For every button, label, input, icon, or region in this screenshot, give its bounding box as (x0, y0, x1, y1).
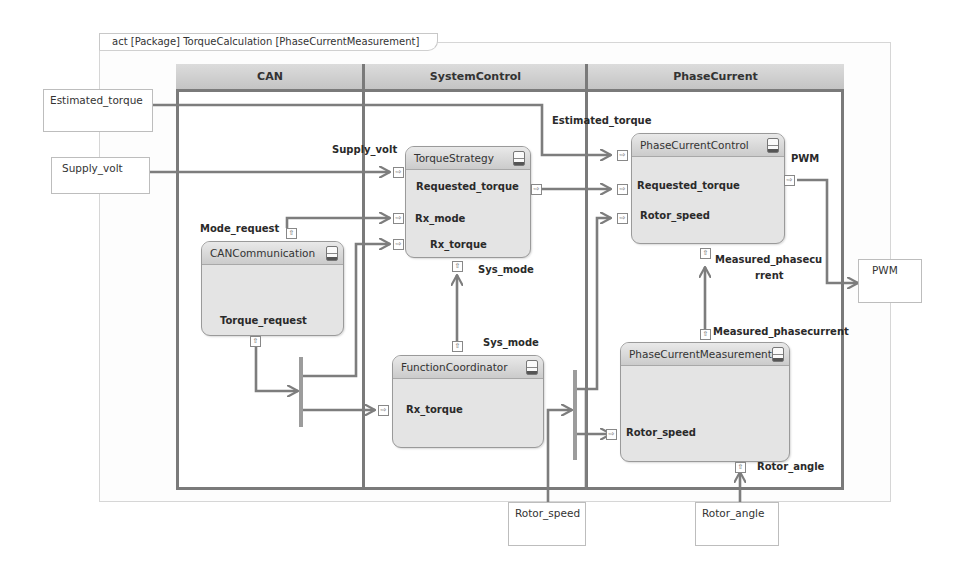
rake-icon (767, 138, 779, 153)
fork-bar-rotor-speed (573, 370, 577, 460)
pin-sys-mode-fc[interactable]: ⇧ (452, 341, 463, 352)
rake-icon (772, 347, 784, 362)
pin-label-rx-torque-fc: Rx_torque (406, 404, 463, 415)
pin-rotor-speed-pcc[interactable]: ⇨ (617, 213, 628, 224)
rake-icon (526, 360, 538, 375)
lane-divider (585, 64, 588, 490)
pin-label-supply-volt: Supply_volt (332, 144, 397, 155)
param-rotor-speed[interactable]: Rotor_speed (508, 502, 586, 546)
pin-label-rx-torque: Rx_torque (430, 239, 487, 250)
pin-label-measured-phasecurrent-1: Measured_phasecu (715, 254, 822, 265)
rake-icon (326, 246, 338, 261)
param-pwm[interactable]: PWM (858, 259, 922, 303)
pin-measured-phasecurrent-in[interactable]: ⇧ (700, 248, 711, 259)
pin-rx-torque[interactable]: ⇨ (393, 239, 404, 250)
pin-label-measured-phasecurrent-2: rrent (755, 270, 784, 281)
action-title-text: CANCommunication (210, 247, 315, 259)
lane-divider (362, 64, 365, 490)
pin-label-mode-request: Mode_request (200, 223, 279, 234)
pin-rotor-speed-pcm[interactable]: ⇨ (606, 429, 617, 440)
pin-label-rotor-speed-pcc: Rotor_speed (640, 210, 710, 221)
action-title: PhaseCurrentMeasurement (621, 343, 789, 366)
param-supply-volt[interactable]: Supply_volt (51, 157, 150, 194)
action-title: PhaseCurrentControl (632, 134, 784, 157)
pin-label-rotor-angle: Rotor_angle (757, 461, 824, 472)
action-phase-current-measurement[interactable]: PhaseCurrentMeasurement (620, 342, 790, 462)
action-function-coordinator[interactable]: FunctionCoordinator (392, 355, 544, 448)
lane-header-can[interactable]: CAN (176, 64, 364, 92)
pin-label-torque-request: Torque_request (220, 315, 307, 326)
pin-rotor-angle[interactable]: ⇧ (735, 462, 746, 473)
lane-header-phasecurrent[interactable]: PhaseCurrent (587, 64, 844, 92)
action-title-text: PhaseCurrentControl (640, 139, 749, 151)
rake-icon (513, 151, 525, 166)
pin-label-sys-mode-ts: Sys_mode (478, 264, 534, 275)
pin-mode-request[interactable]: ⇧ (286, 228, 297, 239)
pin-requested-torque-out[interactable]: ⇨ (531, 184, 542, 195)
lane-header-systemcontrol[interactable]: SystemControl (364, 64, 587, 92)
pin-label-requested-torque: Requested_torque (416, 181, 519, 192)
pin-rx-mode[interactable]: ⇨ (393, 213, 404, 224)
pin-measured-phasecurrent-out[interactable]: ⇧ (700, 329, 711, 340)
param-rotor-angle[interactable]: Rotor_angle (695, 502, 779, 546)
pin-pwm-out[interactable]: ⇨ (784, 175, 795, 186)
pin-estimated-torque[interactable]: ⇨ (617, 150, 628, 161)
action-title-text: PhaseCurrentMeasurement (629, 348, 772, 360)
action-title: FunctionCoordinator (393, 356, 543, 379)
action-title: CANCommunication (202, 242, 343, 265)
pin-label-pwm: PWM (791, 153, 819, 164)
action-title: TorqueStrategy (406, 147, 530, 170)
pin-label-rotor-speed-pcm: Rotor_speed (626, 427, 696, 438)
pin-label-estimated-torque: Estimated_torque (552, 115, 652, 126)
pin-requested-torque-in[interactable]: ⇨ (617, 184, 628, 195)
pin-label-measured-phasecurrent: Measured_phasecurrent (713, 326, 849, 337)
action-title-text: TorqueStrategy (414, 152, 494, 164)
pin-supply-volt[interactable]: ⇨ (393, 167, 404, 178)
pin-label-sys-mode-fc: Sys_mode (483, 337, 539, 348)
frame-title: act [Package] TorqueCalculation [PhaseCu… (99, 33, 438, 51)
fork-bar-torque (299, 357, 303, 427)
pin-label-requested-torque-pcc: Requested_torque (637, 180, 740, 191)
param-estimated-torque[interactable]: Estimated_torque (43, 89, 153, 132)
pin-label-rx-mode: Rx_mode (415, 213, 465, 224)
pin-torque-request[interactable]: ⇧ (250, 336, 261, 347)
pin-sys-mode-ts[interactable]: ⇧ (452, 261, 463, 272)
action-title-text: FunctionCoordinator (401, 361, 508, 373)
pin-rx-torque-fc[interactable]: ⇨ (378, 405, 389, 416)
